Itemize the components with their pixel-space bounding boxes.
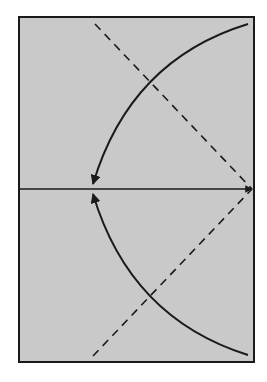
diagram-canvas <box>0 0 267 382</box>
